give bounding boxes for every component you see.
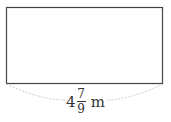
fraction-denominator: 9 [77, 103, 85, 115]
width-unit: m [91, 93, 105, 111]
width-fraction: 7 9 [77, 88, 86, 115]
rectangle [7, 8, 163, 84]
width-label: 4 7 9 m [0, 88, 171, 115]
width-whole: 4 [66, 93, 76, 111]
fraction-numerator: 7 [77, 88, 85, 100]
